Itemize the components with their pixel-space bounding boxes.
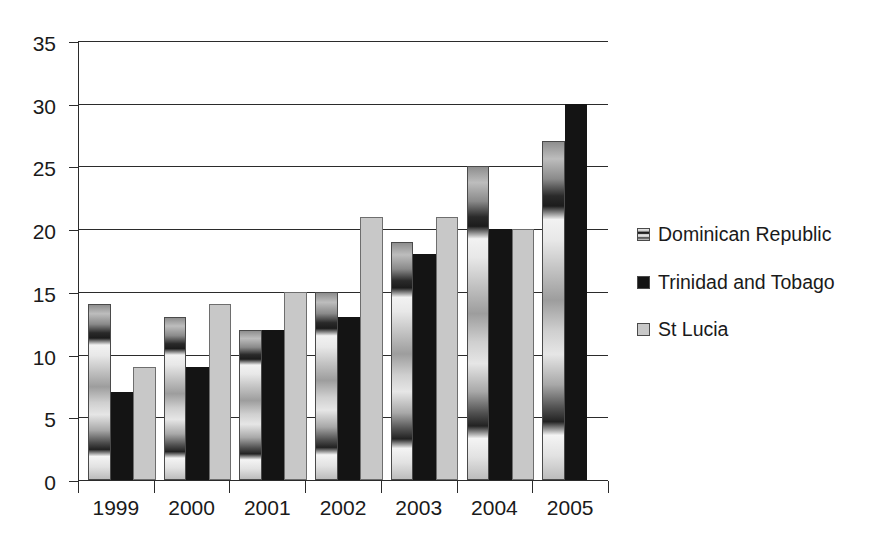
legend-label-st-lucia: St Lucia [658,320,728,340]
y-tick-30: 30 [69,105,78,106]
bar-trinidad-and-tobago-2003 [413,254,436,480]
y-tick-0: 0 [69,481,78,482]
x-label-2000: 2000 [168,497,215,518]
legend-item-trinidad-and-tobago[interactable]: Trinidad and Tobago [637,273,835,293]
plot-area: 05101520253035 [78,41,608,480]
x-label-2003: 2003 [395,497,442,518]
y-tick-label-5: 5 [44,409,56,430]
x-tick-6 [532,481,533,493]
y-tick-35: 35 [69,42,78,43]
y-tick-5: 5 [69,418,78,419]
bar-dominican-republic-2005 [542,141,565,480]
y-tick-label-15: 15 [33,283,56,304]
bar-st-lucia-2000 [209,304,232,480]
legend-swatch-icon-trinidad-and-tobago [637,276,650,289]
x-tick-1 [154,481,155,493]
bar-dominican-republic-2002 [315,292,338,480]
bar-trinidad-and-tobago-1999 [111,392,134,480]
x-label-2004: 2004 [471,497,518,518]
y-tick-10: 10 [69,356,78,357]
x-tick-3 [305,481,306,493]
x-tick-5 [457,481,458,493]
bar-dominican-republic-2000 [164,317,187,480]
bar-dominican-republic-2001 [239,330,262,481]
bar-st-lucia-1999 [133,367,156,480]
x-label-2002: 2002 [320,497,367,518]
y-tick-15: 15 [69,293,78,294]
bar-trinidad-and-tobago-2005 [565,104,588,480]
y-tick-label-0: 0 [44,472,56,493]
bar-st-lucia-2001 [284,292,307,480]
y-tick-label-35: 35 [33,33,56,54]
x-tick-2 [229,481,230,493]
gridline-25: 25 [78,166,608,167]
legend-swatch-icon-st-lucia [637,323,650,336]
bar-st-lucia-2003 [436,217,459,480]
legend-item-dominican-republic[interactable]: Dominican Republic [637,225,835,245]
gridline-30: 30 [78,104,608,105]
y-tick-label-20: 20 [33,221,56,242]
legend-item-st-lucia[interactable]: St Lucia [637,320,835,340]
bar-chart: 05101520253035 1999200020012002200320042… [0,0,893,551]
legend: Dominican Republic Trinidad and Tobago S… [637,225,835,340]
bar-dominican-republic-1999 [88,304,111,480]
bar-trinidad-and-tobago-2000 [186,367,209,480]
y-tick-label-25: 25 [33,158,56,179]
x-tick-0 [78,481,79,493]
gridline-0: 0 [78,480,608,481]
x-tick-7 [608,481,609,493]
bar-trinidad-and-tobago-2004 [489,229,512,480]
y-tick-25: 25 [69,167,78,168]
x-label-2005: 2005 [547,497,594,518]
bar-st-lucia-2004 [512,229,535,480]
bar-st-lucia-2002 [360,217,383,480]
x-tick-4 [381,481,382,493]
legend-label-trinidad-and-tobago: Trinidad and Tobago [658,273,835,293]
gridline-35: 35 [78,41,608,42]
bar-trinidad-and-tobago-2002 [338,317,361,480]
x-label-2001: 2001 [244,497,291,518]
y-tick-label-10: 10 [33,346,56,367]
bar-trinidad-and-tobago-2001 [262,330,285,481]
x-label-1999: 1999 [92,497,139,518]
legend-swatch-icon-dominican-republic [637,228,650,241]
y-tick-label-30: 30 [33,95,56,116]
bar-dominican-republic-2003 [391,242,414,480]
y-tick-20: 20 [69,230,78,231]
legend-label-dominican-republic: Dominican Republic [658,225,831,245]
bar-dominican-republic-2004 [467,166,490,480]
